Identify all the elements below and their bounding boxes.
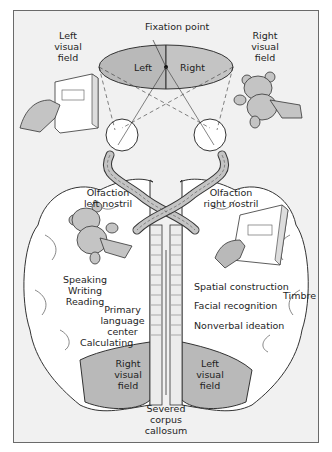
- teddy-bear-icon: [234, 72, 302, 128]
- left-visual-field-label: Left visual field: [48, 30, 88, 63]
- book-icon: [55, 74, 98, 133]
- left-eye-icon: [106, 119, 138, 151]
- severed-corpus-callosum-label: Severed corpus callosum: [141, 403, 191, 436]
- right-visual-field-label: Right visual field: [245, 30, 285, 63]
- olfaction-left-label: Olfaction left nostril: [78, 187, 138, 209]
- olfaction-right-label: Olfaction right nostril: [196, 187, 266, 209]
- right-half-label: Right: [180, 62, 205, 73]
- timbre-label: Timbre: [283, 290, 316, 301]
- hand-icon: [20, 100, 60, 132]
- calculating-label: Calculating: [80, 337, 133, 348]
- language-functions-label: Speaking Writing Reading: [60, 274, 110, 307]
- visual-field-ellipse: [99, 40, 233, 89]
- facial-recognition-label: Facial recognition: [194, 300, 277, 311]
- nonverbal-ideation-label: Nonverbal ideation: [194, 320, 284, 331]
- fixation-point-label: Fixation point: [145, 21, 209, 32]
- right-occipital-label: Left visual field: [190, 358, 230, 391]
- right-eye-icon: [194, 119, 226, 151]
- corpus-callosum: [150, 225, 182, 405]
- diagram-canvas: [0, 0, 332, 452]
- primary-language-center-label: Primary language center: [100, 304, 145, 337]
- left-half-label: Left: [134, 62, 152, 73]
- left-occipital-label: Right visual field: [108, 358, 148, 391]
- spatial-construction-label: Spatial construction: [194, 281, 289, 292]
